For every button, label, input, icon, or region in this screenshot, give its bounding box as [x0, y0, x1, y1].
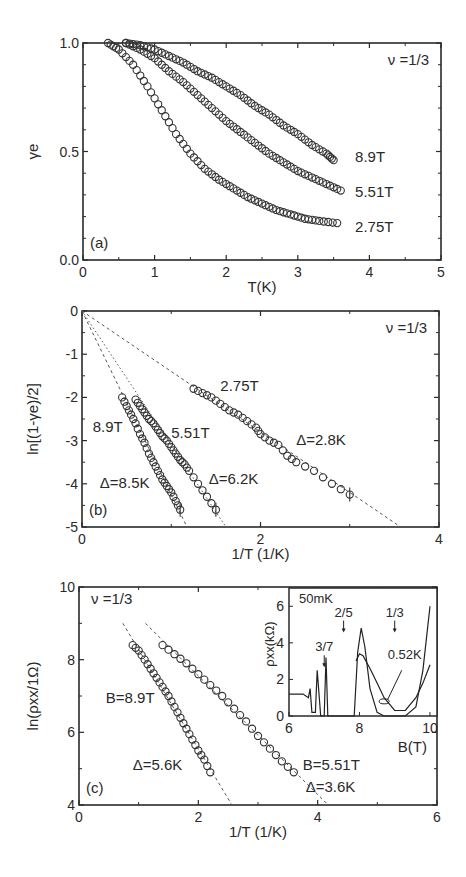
inset-y-tick: 0	[276, 708, 284, 724]
panel-label: (c)	[86, 779, 104, 796]
series-2.75T	[104, 39, 340, 226]
series-label: 2.75T	[355, 218, 393, 235]
series-label: 2.75T	[220, 377, 258, 394]
y-tick-label: 0.0	[60, 252, 80, 268]
y-tick-label: -1	[66, 346, 79, 362]
y-tick-label: -2	[66, 389, 79, 405]
y-axis-label: ln[(1-γe)/2]	[24, 383, 41, 455]
series-label: 8.9T	[355, 148, 385, 165]
inset-plot: 68100246B(T)ρxx(kΩ)50mK3/72/51/30.52K	[262, 588, 438, 755]
series-5.51T	[122, 39, 344, 194]
y-tick-label: 4	[67, 797, 75, 813]
inset-x-tick: 8	[356, 720, 364, 736]
y-axis-label: γe	[24, 144, 41, 160]
series-label: B=5.51T	[303, 756, 360, 773]
y-tick-label: -3	[66, 433, 79, 449]
series-label: Δ=3.6K	[306, 778, 356, 795]
x-tick-label: 4	[435, 531, 443, 547]
filling-factor-annotation: ν =1/3	[91, 590, 132, 607]
y-tick-label: -5	[66, 519, 79, 535]
x-tick-label: 4	[366, 264, 374, 280]
series-label: B=8.9T	[106, 689, 155, 706]
panel-label: (b)	[89, 501, 107, 518]
y-tick-label: 1.0	[60, 35, 80, 51]
panel-c: 0246468101/T (1/K)ln(ρxx/1Ω)ν =1/3(c)B=8…	[24, 579, 441, 840]
curve-label: 0.52K	[388, 647, 422, 662]
inset-y-label: ρxx(kΩ)	[262, 621, 277, 666]
series-label: Δ=6.2K	[209, 470, 259, 487]
panel-b: 0240-1-2-3-4-51/T (1/K)ln[(1-γe)/2]ν =1/…	[24, 303, 443, 562]
fraction-label: 1/3	[386, 605, 404, 620]
series-label: Δ=5.6K	[133, 756, 183, 773]
panel-label: (a)	[90, 234, 108, 251]
y-axis-label: ln(ρxx/1Ω)	[24, 662, 41, 731]
filling-factor-annotation: ν =1/3	[388, 51, 429, 68]
x-tick-label: 1	[151, 264, 159, 280]
figure: 0123450.00.51.0T(K)γeν =1/3(a)8.9T5.51T2…	[0, 0, 466, 877]
x-tick-label: 0	[75, 809, 83, 825]
series-5.51T	[132, 396, 220, 517]
series-label: 8.9T	[93, 418, 123, 435]
series-8.9T	[119, 394, 184, 517]
x-tick-label: 5	[437, 264, 445, 280]
y-tick-label: -4	[66, 476, 79, 492]
inset-x-label: B(T)	[398, 738, 427, 755]
x-axis-label: 1/T (1/K)	[231, 545, 289, 562]
inset-x-tick: 10	[422, 720, 438, 736]
x-tick-label: 2	[222, 264, 230, 280]
x-axis-label: 1/T (1/K)	[229, 823, 287, 840]
fraction-label: 3/7	[315, 639, 333, 654]
inset-y-tick: 2	[276, 671, 284, 687]
x-axis-label: T(K)	[247, 278, 276, 295]
x-tick-label: 0	[78, 531, 86, 547]
x-tick-label: 2	[194, 809, 202, 825]
inset-y-tick: 4	[276, 635, 284, 651]
fraction-label: 2/5	[335, 605, 353, 620]
x-tick-label: 3	[294, 264, 302, 280]
inset-temperature-label: 50mK	[299, 591, 333, 606]
filling-factor-annotation: ν =1/3	[386, 319, 427, 336]
x-tick-label: 0	[79, 264, 87, 280]
y-tick-label: 0.5	[60, 144, 80, 160]
y-tick-label: 8	[67, 652, 75, 668]
y-tick-label: 0	[70, 303, 78, 319]
series-label: Δ=8.5K	[100, 474, 150, 491]
inset-y-tick: 6	[276, 598, 284, 614]
x-tick-label: 4	[314, 809, 322, 825]
y-tick-label: 10	[59, 579, 75, 595]
x-tick-label: 6	[433, 809, 441, 825]
chart-canvas: 0123450.00.51.0T(K)γeν =1/3(a)8.9T5.51T2…	[0, 0, 466, 877]
plot-frame	[82, 311, 439, 527]
inset-x-tick: 6	[285, 720, 293, 736]
y-tick-label: 6	[67, 724, 75, 740]
fit-line	[123, 623, 232, 805]
panel-a: 0123450.00.51.0T(K)γeν =1/3(a)8.9T5.51T2…	[24, 35, 445, 295]
series-label: 5.51T	[171, 424, 209, 441]
series-label: 5.51T	[355, 183, 393, 200]
series-label: Δ=2.8K	[296, 431, 346, 448]
